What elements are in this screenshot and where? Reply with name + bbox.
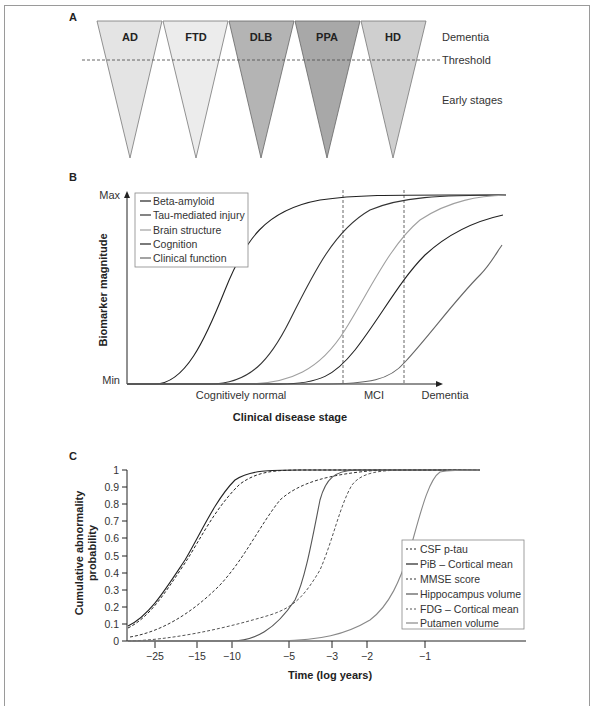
legend-brain-structure: Brain structure: [153, 224, 221, 236]
triangle-label-ad: AD: [122, 31, 138, 43]
legend-hippocampus-volume: Hippocampus volume: [420, 588, 521, 600]
svg-text:0: 0: [113, 635, 119, 647]
legend-fdg-cortical-mean: FDG – Cortical mean: [420, 603, 519, 615]
svg-text:−10: −10: [223, 650, 241, 662]
y-min-label: Min: [102, 374, 120, 386]
svg-text:0.5: 0.5: [104, 550, 119, 562]
legend-tau-mediated-injury: Tau-mediated injury: [153, 209, 245, 221]
triangle-label-ftd: FTD: [185, 31, 206, 43]
triangle-label-ppa: PPA: [316, 31, 338, 43]
panel-b-label: B: [69, 171, 77, 183]
panel-c-legend: CSF p-tau PiB – Cortical mean MMSE score…: [402, 540, 524, 629]
legend-csf-p-tau: CSF p-tau: [420, 543, 468, 555]
x-axis-title: Clinical disease stage: [233, 411, 347, 423]
c-y-axis-title-line2: probability: [86, 524, 98, 581]
panel-a: A AD FTD DLB PPA HD Dementia Threshold E…: [69, 11, 503, 158]
svg-text:−25: −25: [146, 650, 164, 662]
triangle-ad: AD: [97, 21, 162, 158]
legend-mmse-score: MMSE score: [420, 573, 480, 585]
stage-cognitively-normal: Cognitively normal: [196, 389, 286, 401]
triangle-label-dlb: DLB: [250, 31, 273, 43]
panel-c: C 0 0.1 0.2 0.3 0.4 0.5 0.6 0.7 0.8 0.9 …: [69, 450, 526, 681]
svg-text:0.4: 0.4: [104, 567, 119, 579]
triangle-ppa: PPA: [295, 21, 360, 158]
triangle-ftd: FTD: [163, 21, 228, 158]
triangle-label-hd: HD: [385, 31, 401, 43]
panel-b: B Max Min Biomarker magnitude Cognitivel…: [69, 171, 506, 423]
svg-text:−2: −2: [361, 650, 373, 662]
svg-text:0.1: 0.1: [104, 618, 119, 630]
svg-text:−5: −5: [283, 650, 295, 662]
legend-clinical-function: Clinical function: [153, 252, 227, 264]
panel-b-legend: Beta-amyloid Tau-mediated injury Brain s…: [135, 193, 248, 267]
svg-text:0.8: 0.8: [104, 498, 119, 510]
label-dementia: Dementia: [442, 31, 490, 43]
legend-beta-amyloid: Beta-amyloid: [153, 195, 214, 207]
label-threshold: Threshold: [442, 54, 491, 66]
panel-c-label: C: [69, 450, 77, 462]
triangle-hd: HD: [361, 21, 426, 158]
svg-text:1: 1: [113, 464, 119, 476]
c-y-ticks: 0 0.1 0.2 0.3 0.4 0.5 0.6 0.7 0.8 0.9 1: [104, 464, 127, 647]
svg-text:0.6: 0.6: [104, 532, 119, 544]
legend-pib-cortical-mean: PiB – Cortical mean: [420, 558, 513, 570]
svg-text:0.2: 0.2: [104, 601, 119, 613]
legend-putamen-volume: Putamen volume: [420, 617, 499, 629]
curve-mmse-score: [130, 470, 380, 637]
label-early-stages: Early stages: [442, 94, 503, 106]
svg-text:−1: −1: [419, 650, 431, 662]
stage-dementia: Dementia: [421, 389, 469, 401]
c-x-axis-title: Time (log years): [288, 669, 372, 681]
svg-text:−15: −15: [188, 650, 206, 662]
svg-text:0.9: 0.9: [104, 481, 119, 493]
y-max-label: Max: [99, 189, 120, 201]
x-axis-arrow-icon: [436, 381, 443, 387]
c-x-ticks: −25 −15 −10 −5 −3 −2 −1: [146, 641, 431, 662]
y-axis-title: Biomarker magnitude: [97, 233, 109, 346]
svg-text:0.3: 0.3: [104, 584, 119, 596]
stage-mci: MCI: [364, 389, 384, 401]
y-axis-arrow-icon: [124, 191, 130, 198]
svg-text:−3: −3: [326, 650, 338, 662]
triangle-dlb: DLB: [229, 21, 294, 158]
legend-cognition: Cognition: [153, 238, 198, 250]
svg-text:0.7: 0.7: [104, 515, 119, 527]
panel-a-label: A: [69, 11, 77, 23]
c-y-axis-title-line1: Cumulative abnormality: [73, 490, 85, 616]
